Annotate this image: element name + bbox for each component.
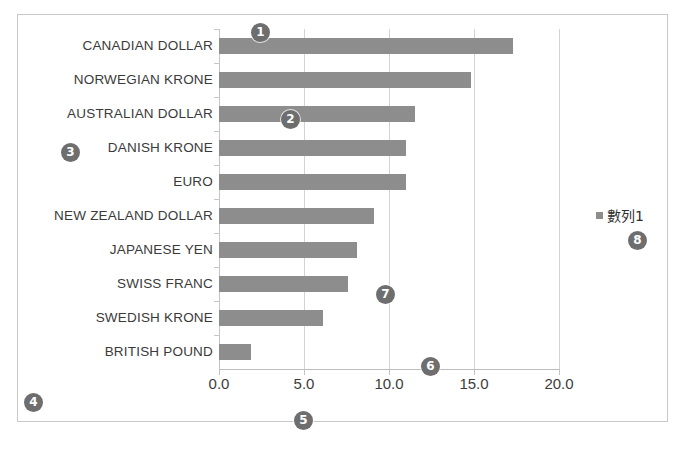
annotation-marker-2: 2: [281, 110, 300, 129]
y-axis-tick: [214, 97, 219, 98]
x-axis-tick-labels: 0.05.010.015.020.0: [219, 375, 559, 399]
category-label: SWEDISH KRONE: [96, 301, 213, 335]
chart-frame[interactable]: CANADIAN DOLLARNORWEGIAN KRONEAUSTRALIAN…: [17, 14, 668, 422]
chart-row: NEW ZEALAND DOLLAR: [18, 199, 669, 233]
chart-row: AUSTRALIAN DOLLAR: [18, 97, 669, 131]
annotation-marker-3: 3: [61, 143, 80, 162]
y-axis-tick: [214, 131, 219, 132]
bar[interactable]: [219, 72, 471, 88]
y-axis-tick: [214, 29, 219, 30]
legend-label: 數列1: [607, 205, 644, 225]
x-axis-tick-label: 10.0: [374, 375, 403, 392]
category-label: DANISH KRONE: [108, 131, 213, 165]
annotation-marker-4: 4: [24, 393, 43, 412]
annotation-marker-5: 5: [294, 411, 313, 430]
y-axis-tick: [214, 165, 219, 166]
x-axis-tick-label: 15.0: [459, 375, 488, 392]
x-axis-tick-label: 20.0: [544, 375, 573, 392]
annotation-marker-8: 8: [628, 231, 647, 250]
bar[interactable]: [219, 344, 251, 360]
category-rows: CANADIAN DOLLARNORWEGIAN KRONEAUSTRALIAN…: [18, 29, 669, 369]
chart-row: BRITISH POUND: [18, 335, 669, 369]
y-axis-tick: [214, 199, 219, 200]
annotation-marker-7: 7: [376, 285, 395, 304]
category-label: EURO: [173, 165, 213, 199]
y-axis-tick: [214, 301, 219, 302]
annotation-marker-6: 6: [421, 357, 440, 376]
y-axis-tick: [214, 63, 219, 64]
category-label: NEW ZEALAND DOLLAR: [54, 199, 213, 233]
chart-row: SWEDISH KRONE: [18, 301, 669, 335]
x-axis-tick-label: 5.0: [294, 375, 315, 392]
chart-row: NORWEGIAN KRONE: [18, 63, 669, 97]
bar[interactable]: [219, 208, 374, 224]
category-label: AUSTRALIAN DOLLAR: [67, 97, 213, 131]
chart-row: JAPANESE YEN: [18, 233, 669, 267]
chart-row: DANISH KRONE: [18, 131, 669, 165]
bar[interactable]: [219, 242, 357, 258]
y-axis-tick: [214, 335, 219, 336]
bar[interactable]: [219, 276, 348, 292]
y-axis-tick: [214, 233, 219, 234]
bar[interactable]: [219, 174, 406, 190]
category-label: NORWEGIAN KRONE: [74, 63, 213, 97]
category-label: BRITISH POUND: [105, 335, 213, 369]
annotation-marker-1: 1: [251, 23, 270, 42]
y-axis-tick: [214, 267, 219, 268]
chart-row: EURO: [18, 165, 669, 199]
chart-row: SWISS FRANC: [18, 267, 669, 301]
x-axis-tick-label: 0.0: [209, 375, 230, 392]
category-label: CANADIAN DOLLAR: [82, 29, 213, 63]
category-label: JAPANESE YEN: [110, 233, 213, 267]
legend-swatch-icon: [596, 212, 603, 219]
chart-row: CANADIAN DOLLAR: [18, 29, 669, 63]
bar[interactable]: [219, 106, 415, 122]
bar[interactable]: [219, 310, 323, 326]
bar[interactable]: [219, 140, 406, 156]
legend[interactable]: 數列1: [596, 205, 644, 225]
category-label: SWISS FRANC: [117, 267, 213, 301]
